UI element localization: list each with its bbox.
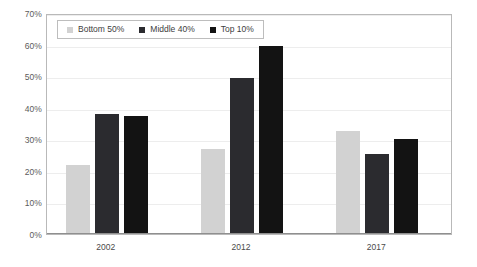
bar — [394, 139, 418, 234]
legend-swatch-icon — [139, 27, 145, 33]
bar-chart: 0%10%20%30%40%50%60%70% Bottom 50%Middle… — [0, 0, 477, 267]
y-axis-tick-label: 40% — [0, 104, 42, 113]
y-axis: 0%10%20%30%40%50%60%70% — [0, 0, 42, 267]
axis-baseline — [47, 233, 451, 234]
legend-swatch-icon — [210, 27, 216, 33]
bar — [230, 78, 254, 234]
x-axis: 200220122017 — [46, 242, 452, 256]
bar — [201, 149, 225, 234]
legend-item[interactable]: Top 10% — [210, 25, 254, 34]
plot-area — [46, 14, 452, 235]
bar — [336, 131, 360, 234]
legend-label: Top 10% — [221, 25, 254, 34]
y-axis-tick-label: 30% — [0, 136, 42, 145]
legend-swatch-icon — [67, 27, 73, 33]
bar — [66, 165, 90, 234]
legend-item[interactable]: Bottom 50% — [67, 25, 124, 34]
bar — [95, 114, 119, 234]
legend-label: Middle 40% — [150, 25, 194, 34]
x-axis-tick-label: 2012 — [232, 242, 251, 252]
bar — [259, 46, 283, 234]
legend-item[interactable]: Middle 40% — [139, 25, 194, 34]
legend: Bottom 50%Middle 40%Top 10% — [57, 20, 264, 39]
bar — [365, 154, 389, 235]
bars-layer — [47, 15, 451, 234]
y-axis-tick-label: 70% — [0, 10, 42, 19]
y-axis-tick-label: 0% — [0, 231, 42, 240]
y-axis-tick-label: 20% — [0, 167, 42, 176]
bar — [124, 116, 148, 234]
y-axis-tick-label: 60% — [0, 41, 42, 50]
x-axis-tick-label: 2002 — [96, 242, 115, 252]
x-axis-tick-label: 2017 — [367, 242, 386, 252]
legend-label: Bottom 50% — [78, 25, 124, 34]
y-axis-tick-label: 10% — [0, 199, 42, 208]
y-axis-tick-label: 50% — [0, 73, 42, 82]
